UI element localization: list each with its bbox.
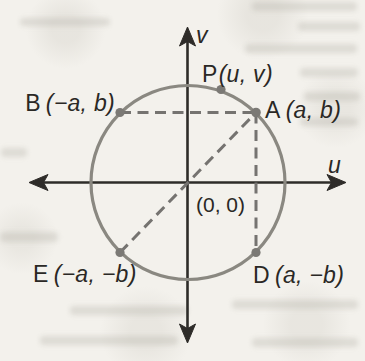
point-d-label: D(a, −b) [253,262,344,288]
u-axis-label: u [328,152,341,178]
point-p-label: P(u, v) [202,61,273,87]
point-a-label: A(a, b) [265,97,341,123]
point-a-dot [251,108,261,118]
origin-label: (0, 0) [196,193,245,216]
point-d-dot [251,248,260,257]
point-b-label: B(−a, b) [25,90,115,116]
textbook-figure-page: P(u, v) A(a, b) B(−a, b) D(a, −b) E(−a, … [0,0,365,361]
v-axis-label: v [196,22,209,48]
point-e-dot [115,248,124,257]
point-e-label: E(−a, −b) [33,261,137,287]
point-b-dot [115,108,124,117]
labels: P(u, v) A(a, b) B(−a, b) D(a, −b) E(−a, … [25,22,344,288]
circle-symmetry-diagram: P(u, v) A(a, b) B(−a, b) D(a, −b) E(−a, … [0,0,365,361]
